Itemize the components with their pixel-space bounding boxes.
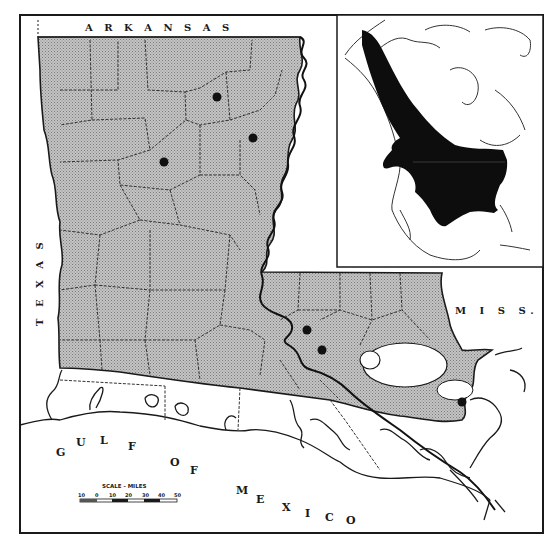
label-miss: M I S S. <box>455 305 539 316</box>
svg-text:10: 10 <box>78 492 85 498</box>
label-texas: T E X A S <box>34 238 45 326</box>
svg-text:M: M <box>236 484 248 497</box>
lake-borgne <box>437 380 473 400</box>
svg-text:30: 30 <box>142 492 149 498</box>
locality-dot <box>160 158 169 167</box>
svg-text:X: X <box>282 501 291 514</box>
locality-dot <box>303 326 312 335</box>
label-gulf-of-mexico: G U L F O F M E X I C O <box>56 434 356 527</box>
locality-dot <box>458 398 467 407</box>
svg-text:C: C <box>325 511 334 524</box>
svg-text:E: E <box>256 493 264 506</box>
locality-dot <box>249 134 258 143</box>
svg-text:40: 40 <box>158 492 165 498</box>
svg-text:20: 20 <box>125 492 132 498</box>
scale-title: SCALE - MILES <box>102 483 146 489</box>
lake-maurepas <box>360 351 380 369</box>
svg-text:F: F <box>128 440 136 453</box>
svg-text:10: 10 <box>109 492 116 498</box>
svg-text:I: I <box>305 507 310 520</box>
svg-text:G: G <box>56 446 65 459</box>
svg-text:F: F <box>190 464 198 477</box>
svg-text:L: L <box>100 434 108 447</box>
label-arkansas: A R K A N S A S <box>84 22 233 33</box>
svg-text:U: U <box>76 436 86 449</box>
scale-bar: SCALE - MILES 10 0 10 20 30 40 50 <box>78 483 181 502</box>
svg-text:O: O <box>170 456 180 469</box>
svg-text:0: 0 <box>95 492 99 498</box>
svg-text:O: O <box>346 514 356 527</box>
inset-map <box>337 15 543 267</box>
svg-text:50: 50 <box>174 492 181 498</box>
locality-dot <box>318 346 327 355</box>
louisiana-range-map: A R K A N S A S T E X A S M I S S. G U L… <box>0 0 555 549</box>
locality-dot <box>213 93 222 102</box>
